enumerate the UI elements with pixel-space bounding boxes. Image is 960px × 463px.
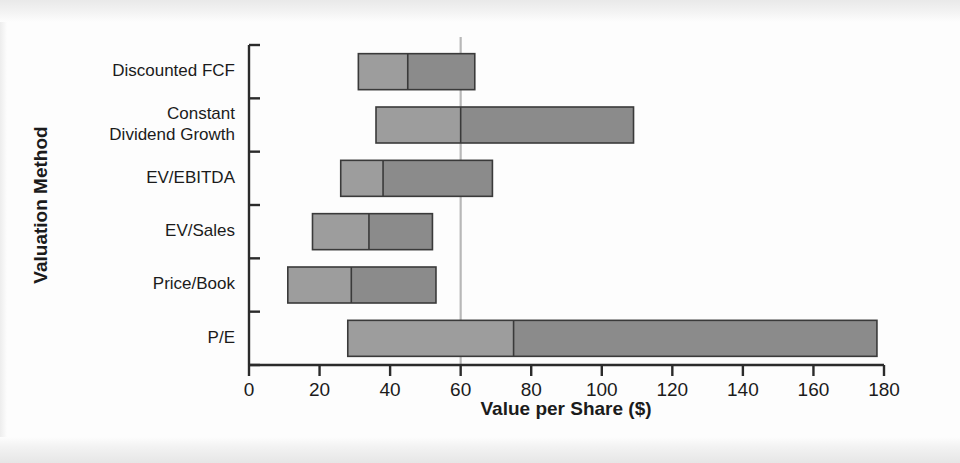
valuation-range-bar bbox=[313, 214, 433, 250]
valuation-range-chart-figure: Valuation Method Discounted FCFConstantD… bbox=[0, 0, 960, 463]
y-axis-category-label: Dividend Growth bbox=[109, 125, 235, 144]
y-axis-category-label: EV/Sales bbox=[165, 221, 235, 240]
x-axis-tick-label: 120 bbox=[656, 379, 688, 400]
x-axis-tick-label: 80 bbox=[521, 379, 542, 400]
x-axis-tick-label: 20 bbox=[309, 379, 330, 400]
y-axis-category-labels: Discounted FCFConstantDividend GrowthEV/… bbox=[109, 61, 235, 347]
y-axis-spine bbox=[249, 45, 260, 365]
y-axis-title: Valuation Method bbox=[30, 126, 51, 283]
y-axis-category-label: Constant bbox=[167, 104, 235, 123]
y-axis-category-label: P/E bbox=[208, 328, 235, 347]
x-axis-tick-label: 140 bbox=[727, 379, 759, 400]
x-axis-spine bbox=[249, 365, 884, 376]
x-axis-tick-label: 160 bbox=[798, 379, 830, 400]
y-axis-category-label: Price/Book bbox=[153, 274, 236, 293]
x-axis-tick-label: 0 bbox=[244, 379, 255, 400]
x-axis-tick-label: 100 bbox=[586, 379, 618, 400]
valuation-range-bar bbox=[341, 160, 493, 196]
x-axis-tick-label: 180 bbox=[868, 379, 900, 400]
x-axis-tick-label: 60 bbox=[450, 379, 471, 400]
valuation-range-bar bbox=[348, 320, 877, 356]
y-axis-category-label: Discounted FCF bbox=[112, 61, 235, 80]
chart-plot-area: Valuation Method Discounted FCFConstantD… bbox=[0, 0, 960, 463]
valuation-range-bar bbox=[376, 107, 634, 143]
y-axis-category-label: EV/EBITDA bbox=[146, 168, 235, 187]
x-axis-tick-label: 40 bbox=[380, 379, 401, 400]
bar-series-group bbox=[288, 54, 877, 357]
x-axis-title: Value per Share ($) bbox=[480, 398, 651, 419]
valuation-range-bar bbox=[358, 54, 474, 90]
x-axis-tick-labels: 020406080100120140160180 bbox=[244, 379, 900, 400]
valuation-range-bar bbox=[288, 267, 436, 303]
